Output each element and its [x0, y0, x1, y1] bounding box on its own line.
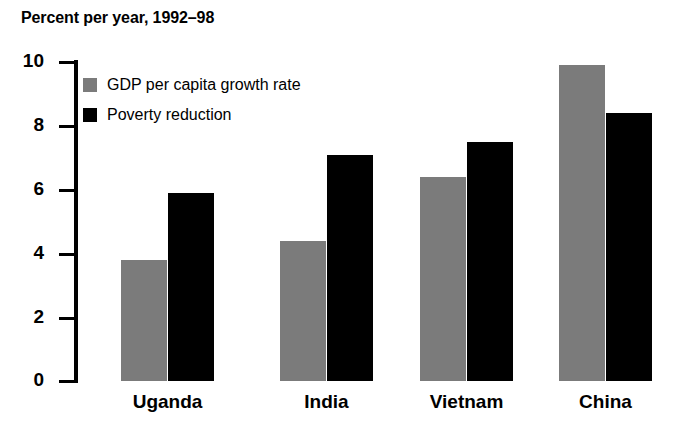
bar-uganda-gdp: [121, 260, 167, 381]
bar-vietnam-gdp: [420, 177, 466, 381]
category-label-vietnam: Vietnam: [397, 391, 537, 413]
legend-item-gdp: GDP per capita growth rate: [83, 70, 301, 100]
bar-uganda-poverty: [168, 193, 214, 381]
bar-china-poverty: [606, 113, 652, 381]
y-tick-label-4: 4: [0, 243, 44, 262]
legend-swatch-poverty-icon: [83, 108, 97, 122]
bar-india-gdp: [280, 241, 326, 381]
category-label-india: India: [257, 391, 397, 413]
y-tick-label-2: 2: [0, 307, 44, 326]
y-tick-label-6: 6: [0, 179, 44, 198]
category-label-uganda: Uganda: [98, 391, 238, 413]
category-label-china: China: [536, 391, 676, 413]
bar-vietnam-poverty: [467, 142, 513, 381]
y-tick-label-10: 10: [0, 51, 44, 70]
legend-item-poverty: Poverty reduction: [83, 100, 301, 130]
legend-swatch-gdp-icon: [83, 78, 97, 92]
bar-china-gdp: [559, 65, 605, 381]
y-tick-mark-6: [59, 189, 74, 192]
y-tick-mark-10: [59, 61, 74, 64]
y-tick-mark-4: [59, 253, 74, 256]
y-tick-label-8: 8: [0, 115, 44, 134]
y-tick-mark-2: [59, 317, 74, 320]
y-tick-mark-0: [59, 380, 74, 383]
chart-legend: GDP per capita growth rate Poverty reduc…: [83, 70, 301, 130]
legend-label-poverty: Poverty reduction: [107, 106, 232, 124]
y-tick-mark-8: [59, 125, 74, 128]
chart-title: Percent per year, 1992–98: [21, 9, 214, 27]
chart-figure: Percent per year, 1992–98 10 8 6 4 2 0 U…: [0, 0, 682, 435]
y-tick-label-0: 0: [0, 370, 44, 389]
bar-india-poverty: [327, 155, 373, 381]
legend-label-gdp: GDP per capita growth rate: [107, 76, 301, 94]
